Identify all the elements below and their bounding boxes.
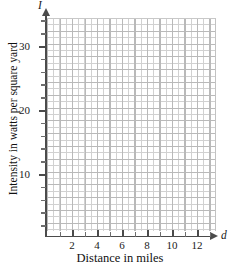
x-axis-major-tick [172, 230, 174, 237]
y-axis-minor-tick [41, 72, 46, 73]
x-axis-line [45, 236, 212, 238]
x-axis-minor-tick [85, 232, 86, 237]
x-axis-tick-label: 8 [137, 240, 157, 251]
x-axis-major-tick [97, 230, 99, 237]
y-axis-minor-tick [41, 123, 46, 124]
data-series-layer [47, 18, 216, 231]
y-axis-variable-symbol: I [38, 0, 42, 12]
x-axis-minor-tick [210, 232, 211, 237]
y-axis-title: Intensity in watts per square yard [8, 11, 20, 227]
y-axis-minor-tick [41, 200, 46, 201]
y-axis-minor-tick [41, 136, 46, 137]
minor-gridlines [47, 18, 216, 231]
plot-area-border [47, 18, 216, 231]
x-axis-tick-label: 4 [87, 240, 107, 251]
graph-figure: I d 30201024681012 Intensity in watts pe… [0, 0, 232, 269]
plot-area [47, 18, 216, 231]
y-axis-minor-tick [41, 148, 46, 149]
y-axis-major-tick [39, 46, 46, 48]
y-axis-major-tick [39, 174, 46, 176]
y-axis-minor-tick [41, 225, 46, 226]
y-axis-minor-tick [41, 187, 46, 188]
y-axis-minor-tick [41, 20, 46, 21]
x-axis-minor-tick [60, 232, 61, 237]
y-axis-arrowhead-icon [42, 8, 50, 16]
x-axis-minor-tick [185, 232, 186, 237]
x-axis-tick-label: 2 [62, 240, 82, 251]
y-axis-minor-tick [41, 33, 46, 34]
x-axis-minor-tick [160, 232, 161, 237]
y-axis-minor-tick [41, 97, 46, 98]
y-axis-minor-tick [41, 212, 46, 213]
x-axis-major-tick [122, 230, 124, 237]
x-axis-major-tick [147, 230, 149, 237]
x-axis-major-tick [72, 230, 74, 237]
major-gridlines [47, 18, 216, 231]
x-axis-tick-label: 12 [187, 240, 207, 251]
x-axis-tick-label: 10 [162, 240, 182, 251]
x-axis-tick-label: 6 [112, 240, 132, 251]
y-axis-major-tick [39, 110, 46, 112]
x-axis-title: Distance in miles [40, 252, 200, 265]
x-axis-minor-tick [110, 232, 111, 237]
y-axis-minor-tick [41, 59, 46, 60]
x-axis-major-tick [197, 230, 199, 237]
y-axis-minor-tick [41, 84, 46, 85]
x-axis-variable-symbol: d [221, 230, 227, 242]
x-axis-arrowhead-icon [210, 232, 218, 240]
y-axis-minor-tick [41, 161, 46, 162]
x-axis-minor-tick [135, 232, 136, 237]
